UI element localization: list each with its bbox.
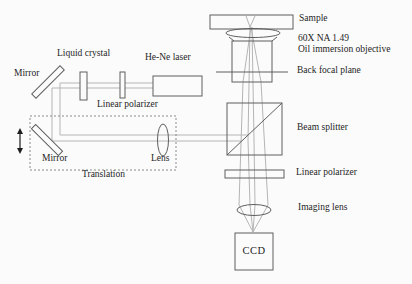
mirror-bottom-label: Mirror: [42, 153, 67, 164]
beam-cone-outer-left: [239, 27, 253, 232]
ccd-label: CCD: [235, 245, 273, 256]
beam-splitter-label: Beam splitter: [297, 122, 348, 133]
lens-label: Lens: [151, 153, 169, 164]
translation-arrow-head-up: [17, 128, 23, 134]
translation-arrow: [17, 128, 23, 154]
mirror-top-label: Mirror: [14, 68, 39, 79]
objective-label: 60X NA 1.49Oil immersion objective: [298, 33, 390, 54]
sample-slide: [210, 15, 293, 29]
mirror-bottom-element: [31, 124, 62, 155]
translation-arrow-head-down: [17, 148, 23, 154]
lens-element: [158, 124, 169, 156]
he-ne-laser-box: [153, 76, 202, 96]
liquid-crystal-label: Liquid crystal: [57, 48, 110, 59]
objective-taper-right: [272, 37, 277, 41]
optical-setup-diagram: Liquid crystal He-Ne laser Mirror Linear…: [0, 0, 412, 284]
liquid-crystal-element: [80, 72, 87, 100]
imaging-lens-label: Imaging lens: [298, 202, 347, 213]
translation-label: Translation: [82, 169, 125, 180]
objective-taper-left: [229, 37, 234, 41]
linear-polarizer-top-element: [120, 72, 125, 98]
he-ne-laser-label: He-Ne laser: [145, 52, 191, 63]
linear-polarizer-top-label: Linear polarizer: [97, 99, 158, 110]
linear-polarizer-bottom-label: Linear polarizer: [296, 167, 357, 178]
objective-label-line2: Oil immersion objective: [298, 44, 390, 54]
objective-label-line1: 60X NA 1.49: [298, 33, 349, 43]
beam-focus-in-sample: [246, 16, 255, 27]
back-focal-plane-label: Back focal plane: [297, 65, 361, 76]
sample-label: Sample: [299, 13, 328, 24]
